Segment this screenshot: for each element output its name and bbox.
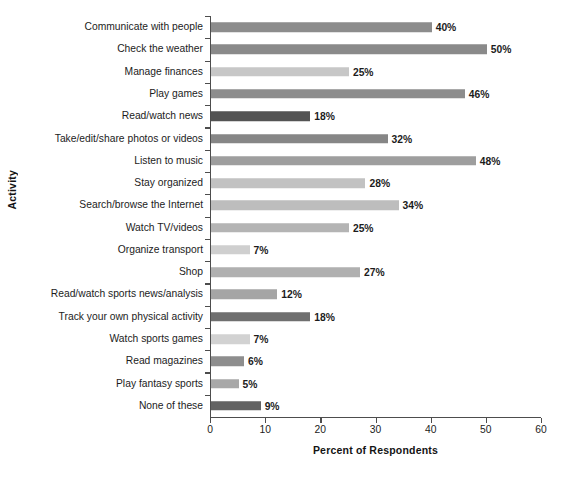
bar bbox=[211, 134, 388, 144]
plot-area: Communicate with people40%Check the weat… bbox=[210, 16, 541, 418]
bar-value-label: 46% bbox=[469, 88, 490, 99]
bar bbox=[211, 89, 465, 99]
bar-value-label: 18% bbox=[314, 111, 335, 122]
bar-value-label: 40% bbox=[436, 22, 457, 33]
y-tick-mark bbox=[205, 395, 210, 396]
y-tick-mark bbox=[205, 306, 210, 307]
bar-row: Read magazines6% bbox=[210, 350, 541, 372]
bar-row: Play fantasy sports5% bbox=[210, 372, 541, 394]
x-tick-label: 40 bbox=[425, 424, 436, 435]
y-tick-mark bbox=[205, 239, 210, 240]
category-label: Stay organized bbox=[134, 177, 203, 189]
y-tick-mark bbox=[205, 217, 210, 218]
bar bbox=[211, 401, 261, 411]
bar-row: None of these9% bbox=[210, 395, 541, 417]
bar-value-label: 27% bbox=[364, 267, 385, 278]
category-label: Manage finances bbox=[125, 66, 203, 78]
category-label: Watch TV/videos bbox=[126, 222, 203, 234]
x-tick-mark bbox=[486, 418, 487, 423]
y-tick-mark bbox=[205, 105, 210, 106]
bar bbox=[211, 178, 365, 188]
bar-value-label: 5% bbox=[243, 378, 258, 389]
bar bbox=[211, 245, 250, 255]
bar bbox=[211, 223, 349, 233]
category-label: Read/watch sports news/analysis bbox=[51, 288, 203, 300]
category-label: Read magazines bbox=[126, 355, 203, 367]
y-tick-mark bbox=[205, 83, 210, 84]
y-tick-mark bbox=[205, 194, 210, 195]
x-tick-mark bbox=[541, 418, 542, 423]
y-tick-mark bbox=[205, 16, 210, 17]
bar bbox=[211, 67, 349, 77]
bar-value-label: 18% bbox=[314, 311, 335, 322]
y-tick-mark bbox=[205, 172, 210, 173]
x-tick-label: 50 bbox=[480, 424, 491, 435]
bar-rows: Communicate with people40%Check the weat… bbox=[210, 16, 541, 417]
y-tick-mark bbox=[205, 350, 210, 351]
bar bbox=[211, 22, 432, 32]
x-tick-label: 10 bbox=[259, 424, 270, 435]
category-label: Shop bbox=[179, 266, 203, 278]
bar-value-label: 48% bbox=[480, 155, 501, 166]
category-label: Track your own physical activity bbox=[59, 311, 203, 323]
bar-value-label: 34% bbox=[403, 200, 424, 211]
category-label: Take/edit/share photos or videos bbox=[55, 133, 203, 145]
bar bbox=[211, 379, 239, 389]
x-tick-mark bbox=[265, 418, 266, 423]
bar bbox=[211, 201, 399, 211]
bar-value-label: 28% bbox=[369, 178, 390, 189]
bar-value-label: 50% bbox=[491, 44, 512, 55]
bar bbox=[211, 312, 310, 322]
bar-row: Communicate with people40% bbox=[210, 16, 541, 38]
x-tick-mark bbox=[210, 418, 211, 423]
bar-value-label: 25% bbox=[353, 222, 374, 233]
bar-row: Read/watch sports news/analysis12% bbox=[210, 283, 541, 305]
bar-value-label: 7% bbox=[254, 244, 269, 255]
category-label: Play fantasy sports bbox=[116, 378, 203, 390]
bar bbox=[211, 334, 250, 344]
bar bbox=[211, 45, 487, 55]
y-axis-title: Activity bbox=[6, 170, 24, 210]
x-axis-title: Percent of Respondents bbox=[210, 444, 541, 456]
bar-value-label: 12% bbox=[281, 289, 302, 300]
y-tick-mark bbox=[205, 127, 210, 128]
bar-row: Manage finances25% bbox=[210, 61, 541, 83]
y-tick-mark bbox=[205, 261, 210, 262]
y-tick-mark bbox=[205, 38, 210, 39]
bar bbox=[211, 111, 310, 121]
bar-chart: Activity Communicate with people40%Check… bbox=[0, 0, 566, 477]
bar-value-label: 7% bbox=[254, 334, 269, 345]
y-tick-mark bbox=[205, 283, 210, 284]
x-tick-label: 20 bbox=[315, 424, 326, 435]
bar-row: Take/edit/share photos or videos32% bbox=[210, 127, 541, 149]
bar-row: Play games46% bbox=[210, 83, 541, 105]
category-label: Organize transport bbox=[118, 244, 203, 256]
bar-row: Watch sports games7% bbox=[210, 328, 541, 350]
bar bbox=[211, 357, 244, 367]
category-label: Watch sports games bbox=[110, 333, 203, 345]
category-label: Read/watch news bbox=[122, 110, 203, 122]
x-tick-mark bbox=[376, 418, 377, 423]
bar-value-label: 9% bbox=[265, 400, 280, 411]
bar-row: Shop27% bbox=[210, 261, 541, 283]
y-tick-mark bbox=[205, 61, 210, 62]
category-label: None of these bbox=[139, 400, 203, 412]
bar-value-label: 25% bbox=[353, 66, 374, 77]
x-tick-label: 60 bbox=[535, 424, 546, 435]
bar-row: Watch TV/videos25% bbox=[210, 217, 541, 239]
y-tick-mark bbox=[205, 150, 210, 151]
bar bbox=[211, 290, 277, 300]
bar-row: Read/watch news18% bbox=[210, 105, 541, 127]
x-tick-mark bbox=[431, 418, 432, 423]
bar bbox=[211, 156, 476, 166]
bar-row: Search/browse the Internet34% bbox=[210, 194, 541, 216]
x-tick-mark bbox=[320, 418, 321, 423]
bar-row: Track your own physical activity18% bbox=[210, 306, 541, 328]
x-tick-label: 0 bbox=[207, 424, 213, 435]
bar-value-label: 6% bbox=[248, 356, 263, 367]
y-tick-mark bbox=[205, 328, 210, 329]
category-label: Listen to music bbox=[134, 155, 203, 167]
x-tick-label: 30 bbox=[370, 424, 381, 435]
bar-row: Check the weather50% bbox=[210, 38, 541, 60]
bar-row: Organize transport7% bbox=[210, 239, 541, 261]
